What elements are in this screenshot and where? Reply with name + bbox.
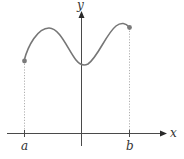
y-axis-label: y	[76, 0, 84, 12]
endpoint-a-dot	[22, 59, 27, 64]
x-axis-arrow-icon	[160, 131, 167, 137]
endpoint-b-dot	[127, 25, 132, 30]
x-axis-label: x	[170, 126, 177, 140]
tick-label-b: b	[126, 139, 134, 153]
tick-label-a: a	[21, 139, 28, 153]
function-graph: x y a b	[0, 0, 184, 159]
function-curve	[24, 23, 129, 65]
y-axis-arrow-icon	[79, 11, 85, 18]
